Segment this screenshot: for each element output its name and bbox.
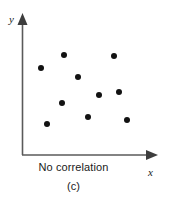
data-point <box>124 117 130 123</box>
y-axis-arrow-icon <box>18 13 28 25</box>
data-point <box>75 74 81 80</box>
chart-caption-title: No correlation <box>0 161 169 173</box>
chart-caption-subtitle: (c) <box>0 180 169 192</box>
data-point <box>59 100 65 106</box>
data-point <box>44 121 50 127</box>
x-axis-arrow-icon <box>146 150 158 160</box>
data-point <box>111 53 117 59</box>
data-points-group <box>38 52 130 127</box>
data-point <box>61 52 67 58</box>
data-point <box>96 92 102 98</box>
data-point <box>85 114 91 120</box>
scatter-plot-figure: y x No correlation (c) <box>0 0 169 202</box>
data-point <box>116 89 122 95</box>
y-axis-label: y <box>8 13 14 25</box>
data-point <box>38 65 44 71</box>
